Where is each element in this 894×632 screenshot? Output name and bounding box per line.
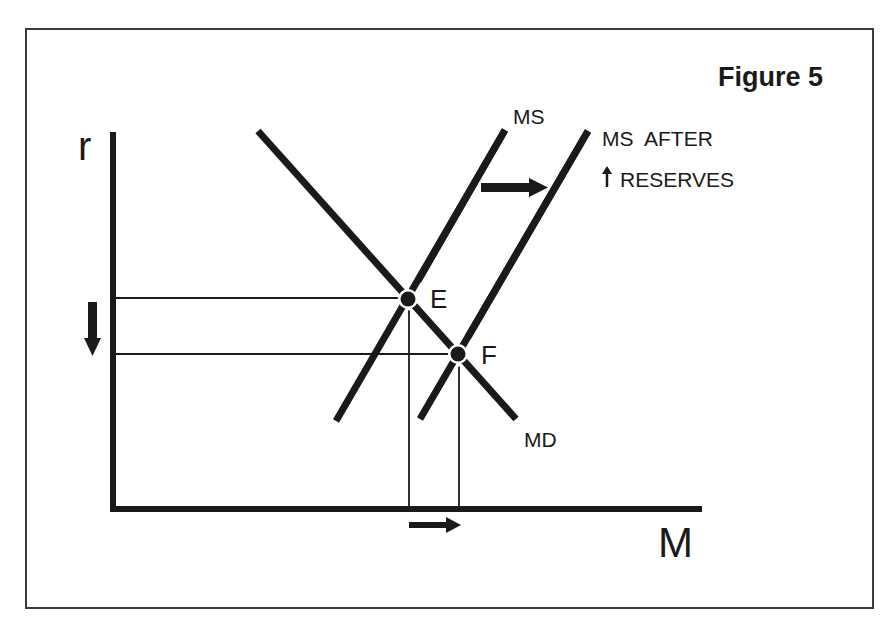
point-label-f: F [481,340,497,370]
x-axis-label: M [658,519,693,566]
figure-canvas: Figure 5 r M E F MS MD MS AFTER RESERVES [0,0,894,632]
point-label-e: E [430,284,447,314]
md-label: MD [524,428,557,451]
ms-label: MS [513,105,545,128]
y-axis-label: r [78,124,91,168]
ms-after-label-line2: RESERVES [620,168,734,191]
figure-title: Figure 5 [718,62,823,92]
ms-after-label-line1: MS AFTER [602,127,713,150]
